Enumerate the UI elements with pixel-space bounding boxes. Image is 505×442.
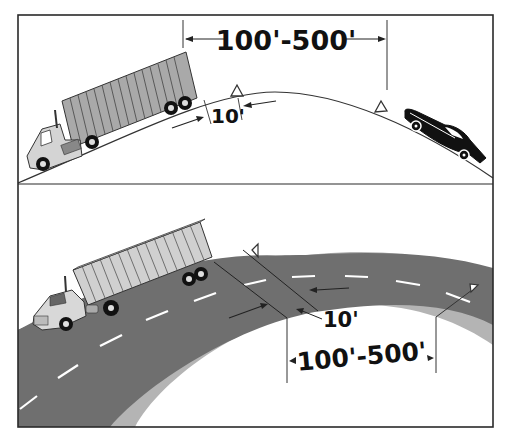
- truck-top-icon: [27, 52, 197, 171]
- bottom-panel-curve: 10' 100'-500': [18, 219, 493, 427]
- bottom-gap-label: 10': [323, 308, 359, 332]
- arrowhead-icon: [196, 116, 204, 122]
- arrowhead-left-icon: [185, 36, 193, 42]
- top-gap-label: 10': [211, 104, 245, 128]
- arrowhead-right-icon: [378, 36, 386, 42]
- top-distance-label: 100'-500': [216, 25, 356, 56]
- top-panel-hill: 100'-500' 10': [18, 20, 493, 183]
- warning-triangle-icon: [231, 85, 243, 96]
- arrowhead-right-icon: [427, 355, 434, 361]
- arrowhead-left-icon: [289, 357, 296, 364]
- bottom-distance-dimension: 100'-500': [289, 336, 434, 376]
- warning-triangle-icon: [375, 101, 387, 112]
- warning-triangle-icon: [252, 244, 258, 257]
- gap-arrow-in-right: [250, 101, 276, 105]
- bottom-distance-label: 100'-500': [296, 336, 428, 376]
- gap-arrow-in-left: [172, 119, 198, 128]
- car-icon: [405, 109, 486, 163]
- warning-device-placement-diagram: 100'-500' 10': [0, 0, 505, 442]
